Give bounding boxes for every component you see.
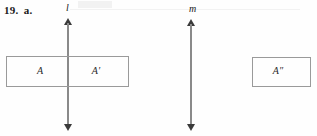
line-l-arrowhead-bottom-icon: [64, 124, 72, 131]
problem-part: a.: [24, 4, 33, 16]
figure-left-rectangle: [6, 56, 129, 87]
line-l-label: l: [66, 2, 69, 13]
line-m-label: m: [189, 3, 196, 14]
line-m-arrowhead-bottom-icon: [187, 124, 195, 131]
region-label-a-prime: A′: [92, 65, 100, 76]
scan-artifact-streak: [70, 9, 300, 10]
problem-number: 19.: [4, 4, 19, 16]
problem-label: 19.a.: [4, 4, 33, 16]
region-label-a: A: [37, 65, 43, 76]
scan-artifact-smudge: [78, 1, 112, 8]
line-m-shaft: [190, 24, 192, 126]
region-label-a-double-prime: A″: [273, 65, 283, 76]
exercise-figure-page: 19.a. l m A A′ A″: [0, 0, 317, 136]
